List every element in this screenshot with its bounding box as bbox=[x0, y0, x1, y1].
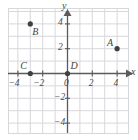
point-label-b: B bbox=[32, 27, 38, 37]
point-d bbox=[65, 71, 70, 76]
x-tick-label-0: 0 bbox=[64, 79, 69, 89]
x-tick-label-4: 4 bbox=[114, 79, 119, 89]
y-tick-label-neg2: −2 bbox=[54, 93, 65, 103]
point-label-a: A bbox=[107, 38, 113, 48]
y-axis-label: y bbox=[62, 1, 66, 11]
point-label-d: D bbox=[71, 61, 78, 71]
point-c bbox=[28, 71, 33, 76]
x-tick-label-neg2: −2 bbox=[33, 79, 44, 89]
y-tick-label-2: 2 bbox=[58, 43, 63, 53]
y-tick-label-4: 4 bbox=[58, 18, 63, 28]
y-tick-label-neg4: −4 bbox=[54, 118, 65, 128]
point-a bbox=[115, 46, 120, 51]
x-tick-label-neg4: −4 bbox=[8, 79, 19, 89]
x-tick-label-2: 2 bbox=[89, 79, 94, 89]
point-label-c: C bbox=[20, 61, 27, 71]
grid-lines bbox=[8, 8, 129, 134]
coordinate-plane-figure: −4−202442−2−4 ABCD x y bbox=[0, 0, 138, 140]
axes bbox=[8, 9, 133, 133]
x-axis-label: x bbox=[131, 67, 135, 77]
